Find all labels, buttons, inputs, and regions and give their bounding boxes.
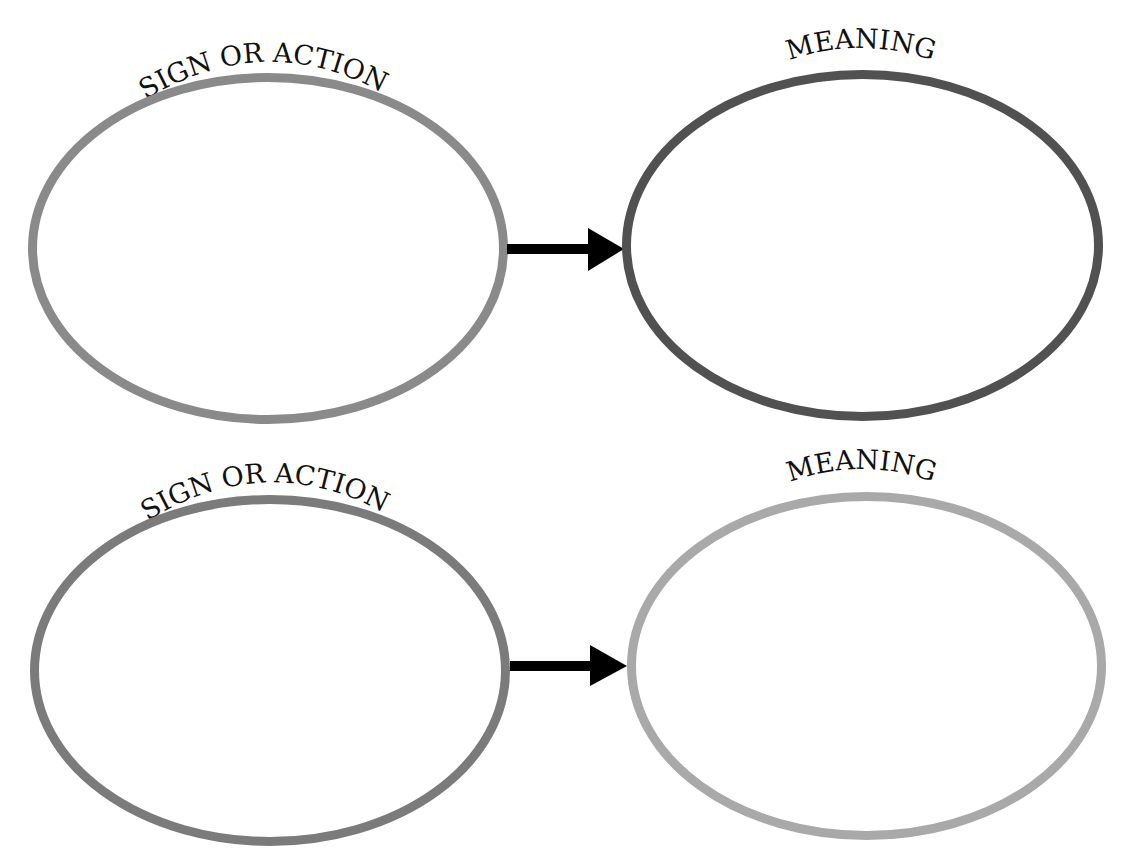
meaning-label-2: MEANING <box>783 444 941 488</box>
meaning-ellipse-2[interactable] <box>632 497 1102 836</box>
sign-meaning-diagram: SIGN OR ACTION MEANING SIGN OR ACTION ME… <box>0 0 1125 864</box>
sign-ellipse-2[interactable] <box>35 500 506 842</box>
row-1: SIGN OR ACTION MEANING <box>33 23 1099 420</box>
row-2: SIGN OR ACTION MEANING <box>35 444 1102 842</box>
meaning-ellipse-1[interactable] <box>627 75 1099 417</box>
meaning-label-1: MEANING <box>782 23 940 66</box>
arrow-right-icon-1 <box>507 228 624 271</box>
arrow-right-icon-2 <box>510 645 627 686</box>
sign-ellipse-1[interactable] <box>33 78 504 420</box>
